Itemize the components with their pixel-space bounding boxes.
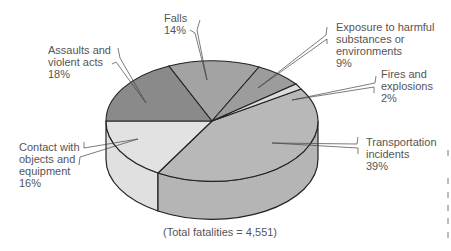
label-falls: Falls 14% (164, 12, 187, 36)
label-exposure: Exposure to harmful substances or enviro… (336, 21, 434, 69)
chart-footnote: (Total fatalities = 4,551) (163, 226, 277, 238)
label-contact: Contact with objects and equipment 16% (19, 141, 80, 189)
label-transportation: Transportation incidents 39% (366, 136, 437, 172)
label-assaults: Assaults and violent acts 18% (48, 44, 111, 80)
pie-top (106, 61, 318, 182)
label-fires: Fires and explosions 2% (381, 68, 433, 104)
